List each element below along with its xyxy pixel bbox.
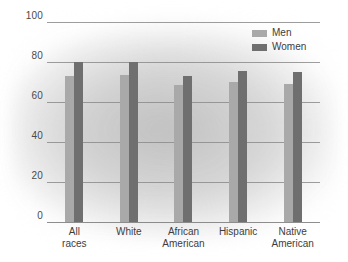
legend-item-women[interactable]: Women [252,42,306,52]
x-tick-label-line: African [156,226,211,238]
x-tick-label: NativeAmerican [265,226,320,250]
plot-area [47,22,320,222]
x-tick-label: Hispanic [211,226,266,250]
chart-legend: MenWomen [252,28,306,52]
bar-men[interactable] [229,82,238,222]
bar-group [265,22,320,222]
x-tick-label-line: races [47,238,102,250]
y-tick-label-20: 20 [3,171,43,181]
x-axis-category-labels: AllracesWhiteAfricanAmericanHispanicNati… [47,226,320,250]
x-tick-label-line: American [265,238,320,250]
bar-group [102,22,157,222]
x-tick-label-line: American [156,238,211,250]
bar-men[interactable] [174,85,183,222]
bar-men[interactable] [65,76,74,222]
x-tick-label-line: Hispanic [211,226,266,238]
bar-group [211,22,266,222]
bar-women[interactable] [238,71,247,222]
bar-men[interactable] [120,75,129,222]
x-tick-label: White [102,226,157,250]
y-tick-label-40: 40 [3,131,43,141]
gridline-0 [47,222,320,223]
legend-label-women: Women [272,42,306,52]
bar-women[interactable] [293,72,302,222]
y-tick-label-60: 60 [3,91,43,101]
x-tick-label-line: Native [265,226,320,238]
legend-label-men: Men [272,28,291,38]
bar-women[interactable] [129,62,138,222]
bar-group [156,22,211,222]
x-tick-label: Allraces [47,226,102,250]
bar-women[interactable] [183,76,192,222]
bar-women[interactable] [74,62,83,222]
y-tick-label-0: 0 [3,211,43,221]
bar-men[interactable] [284,84,293,222]
legend-swatch-women [252,44,267,51]
x-tick-label-line: All [47,226,102,238]
legend-swatch-men [252,30,267,37]
legend-item-men[interactable]: Men [252,28,306,38]
y-tick-label-80: 80 [3,51,43,61]
bar-chart-figure: 020406080100 AllracesWhiteAfricanAmerica… [0,0,348,262]
bar-group [47,22,102,222]
y-tick-label-100: 100 [3,11,43,21]
bar-groups [47,22,320,222]
x-tick-label-line: White [102,226,157,238]
x-tick-label: AfricanAmerican [156,226,211,250]
